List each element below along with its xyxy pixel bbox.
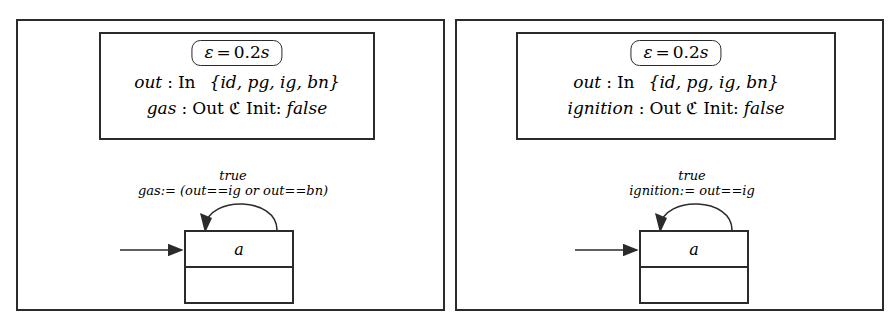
epsilon-equals: = xyxy=(653,42,673,62)
port-init-value: false xyxy=(744,98,785,118)
port-colon: : xyxy=(639,98,645,118)
panel-ignition-component: ε=0.2s out:In{id, pg, ig, bn} ignition:O… xyxy=(455,19,884,311)
transition-guard: true xyxy=(78,168,388,183)
transition-action: ignition:= out==ig xyxy=(537,183,847,198)
port-type: {id, pg, ig, bn} xyxy=(210,72,340,92)
port-direction: In xyxy=(617,72,635,92)
transition-label: true ignition:= out==ig xyxy=(537,168,847,198)
port-colon: : xyxy=(181,98,187,118)
port-colon: : xyxy=(167,72,173,92)
port-declaration-row: out:In{id, pg, ig, bn} xyxy=(101,72,373,93)
port-direction: In xyxy=(178,72,196,92)
panel-gas-component: ε=0.2s out:In{id, pg, ig, bn} gas:OutℭIn… xyxy=(16,19,445,311)
state-box: a xyxy=(639,230,749,304)
state-label: a xyxy=(689,240,699,259)
declaration-box: ε=0.2s out:In{id, pg, ig, bn} ignition:O… xyxy=(516,32,836,140)
epsilon-symbol: ε xyxy=(204,42,213,62)
port-name: ignition xyxy=(568,98,634,118)
state-name-compartment: a xyxy=(186,232,292,268)
figure-canvas: ε=0.2s out:In{id, pg, ig, bn} gas:OutℭIn… xyxy=(0,0,894,330)
epsilon-equals: = xyxy=(214,42,234,62)
state-box: a xyxy=(184,230,294,304)
state-label: a xyxy=(234,240,244,259)
port-init-label: Init: xyxy=(703,98,739,118)
port-declaration-row: gas:OutℭInit:false xyxy=(101,98,373,119)
port-declaration-row: out:In{id, pg, ig, bn} xyxy=(518,72,834,93)
state-body-compartment xyxy=(186,268,292,302)
epsilon-pill: ε=0.2s xyxy=(191,40,282,66)
state-body-compartment xyxy=(641,268,747,302)
port-name: out xyxy=(134,72,162,92)
transition-action: gas:= (out==ig or out==bn) xyxy=(78,183,388,198)
transition-guard: true xyxy=(537,168,847,183)
port-declaration-row: ignition:OutℭInit:false xyxy=(518,98,834,119)
epsilon-value: 0.2 xyxy=(234,42,261,62)
port-colon: : xyxy=(606,72,612,92)
epsilon-symbol: ε xyxy=(643,42,652,62)
epsilon-pill: ε=0.2s xyxy=(630,40,721,66)
port-direction: Out xyxy=(192,98,224,118)
transition-label: true gas:= (out==ig or out==bn) xyxy=(78,168,388,198)
port-init-value: false xyxy=(287,98,328,118)
epsilon-unit: s xyxy=(700,42,709,62)
port-name: gas xyxy=(147,98,177,118)
self-loop-arrow xyxy=(655,204,732,233)
self-loop-arrow xyxy=(200,204,277,233)
port-init-label: Init: xyxy=(246,98,282,118)
port-type: {id, pg, ig, bn} xyxy=(649,72,779,92)
epsilon-value: 0.2 xyxy=(673,42,700,62)
state-name-compartment: a xyxy=(641,232,747,268)
port-type: ℭ xyxy=(229,98,241,118)
port-name: out xyxy=(573,72,601,92)
port-type: ℭ xyxy=(686,98,698,118)
epsilon-unit: s xyxy=(261,42,270,62)
declaration-box: ε=0.2s out:In{id, pg, ig, bn} gas:OutℭIn… xyxy=(99,32,375,140)
port-direction: Out xyxy=(649,98,681,118)
